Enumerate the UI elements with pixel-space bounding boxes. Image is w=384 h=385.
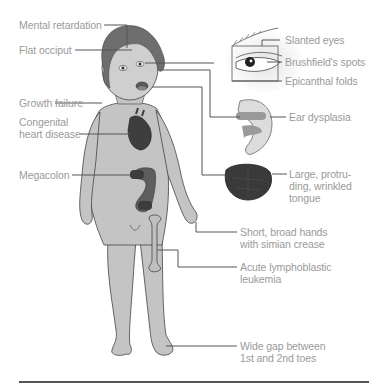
label-flat-occiput: Flat occiput (19, 44, 72, 57)
bottom-divider (19, 381, 369, 383)
label-tongue-line2: ding, wrinkled (289, 180, 352, 193)
tongue-inset (225, 164, 271, 200)
label-mental-retardation: Mental retardation (19, 19, 102, 32)
label-hands-line2: with simian crease (240, 238, 325, 251)
label-leukemia-line2: leukemia (240, 273, 281, 286)
label-leukemia-line1: Acute lymphoblastic (240, 261, 331, 274)
label-tongue-line3: tongue (289, 192, 321, 205)
label-hands-line1: Short, broad hands (240, 226, 328, 239)
label-heart-disease: heart disease (19, 128, 81, 141)
label-slanted-eyes: Slanted eyes (285, 34, 345, 47)
label-toes-line1: Wide gap between (240, 340, 325, 353)
label-ear-dysplasia: Ear dysplasia (289, 111, 351, 124)
label-toes-line2: 1st and 2nd toes (240, 352, 316, 365)
label-growth-failure: Growth failure (19, 97, 83, 110)
left-leg (108, 240, 136, 355)
label-epicanthal-folds: Epicanthal folds (285, 75, 358, 88)
label-tongue-line1: Large, protru- (289, 168, 351, 181)
label-congenital: Congenital (19, 116, 68, 129)
ear-inset (236, 100, 272, 155)
label-megacolon: Megacolon (19, 169, 69, 182)
child-figure (80, 26, 197, 356)
label-brushfields-spots: Brushfield's spots (285, 56, 365, 69)
